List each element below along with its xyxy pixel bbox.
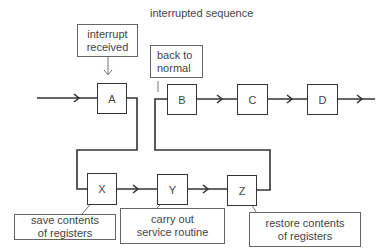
note-line: restore contents bbox=[266, 217, 345, 230]
note-line: carry out bbox=[151, 213, 194, 226]
restore-contents-note: restore contents of registers bbox=[249, 212, 361, 247]
note-line: normal bbox=[157, 62, 191, 75]
note-line: of registers bbox=[278, 230, 332, 243]
step-b-label: B bbox=[178, 94, 185, 106]
step-y-label: Y bbox=[169, 184, 176, 196]
step-c-label: C bbox=[249, 94, 257, 106]
diagram-title: interrupted sequence bbox=[150, 7, 253, 19]
back-to-normal-note: back to normal bbox=[150, 45, 203, 78]
note-line: save contents bbox=[31, 214, 99, 227]
step-a-label: A bbox=[108, 93, 115, 105]
note-line: service routine bbox=[137, 226, 209, 239]
note-line: received bbox=[87, 41, 129, 54]
step-z: Z bbox=[227, 175, 257, 206]
step-b: B bbox=[167, 84, 197, 115]
step-z-label: Z bbox=[239, 185, 246, 197]
step-x-label: X bbox=[98, 183, 105, 195]
interrupt-received-note: interrupt received bbox=[77, 24, 138, 57]
step-a: A bbox=[97, 83, 127, 114]
step-d-label: D bbox=[319, 94, 327, 106]
step-x: X bbox=[87, 173, 117, 205]
note-line: of registers bbox=[38, 227, 92, 240]
carry-out-note: carry out service routine bbox=[120, 208, 225, 244]
step-y: Y bbox=[157, 174, 188, 205]
note-line: back to bbox=[157, 49, 192, 62]
step-c: C bbox=[237, 84, 268, 115]
step-d: D bbox=[307, 84, 338, 115]
save-contents-note: save contents of registers bbox=[14, 214, 116, 240]
note-line: interrupt bbox=[87, 28, 127, 41]
